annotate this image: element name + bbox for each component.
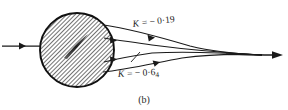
- streamline-diagram: K= − 0·19 K= − 0·64 (b): [0, 0, 288, 110]
- figure-caption: (b): [138, 94, 150, 106]
- figure-container: K= − 0·19 K= − 0·64 (b): [0, 0, 288, 110]
- hatched-body: [40, 13, 114, 87]
- label-k-lower-value: = − 0·6: [127, 67, 156, 78]
- label-k-lower-symbol: K: [117, 69, 126, 79]
